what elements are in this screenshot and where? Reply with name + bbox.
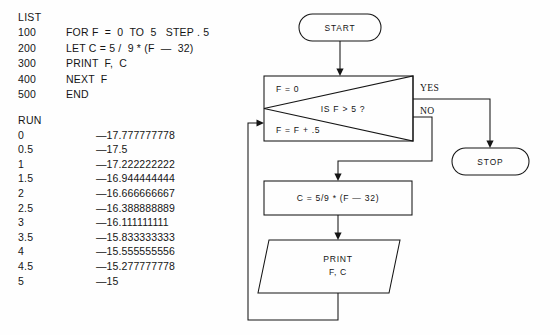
print-label-line2: F, C (329, 267, 347, 277)
connector-no-to-process (338, 117, 432, 175)
decision-test-label: IS F > 5 ? (321, 104, 366, 114)
decision-init-label: F = 0 (276, 84, 299, 94)
print-label-line1: PRINT (323, 254, 352, 264)
stop-label: STOP (477, 157, 503, 167)
no-branch-label: NO (420, 105, 435, 116)
decision-increment-label: F = F + .5 (276, 125, 320, 135)
flowchart: START F = 0 F = F + .5 IS F > 5 ? YES ST… (0, 0, 560, 335)
process-label: C = 5/9 * (F — 32) (297, 193, 380, 203)
arrowhead-into-process (334, 174, 341, 182)
connector-loop-back-to-decision (248, 123, 338, 320)
yes-branch-label: YES (420, 82, 439, 93)
arrowhead-into-decision (336, 69, 343, 77)
arrowhead-into-print (334, 233, 341, 241)
figure-canvas: LIST 100 FOR F = 0 TO 5 STEP . 5 200 LET… (0, 0, 560, 335)
arrowhead-into-stop (486, 141, 493, 149)
arrowhead-loop-into-decision (257, 119, 265, 126)
start-label: START (324, 23, 355, 33)
